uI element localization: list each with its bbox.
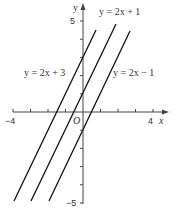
line-y-2x-minus-1 (49, 31, 130, 201)
y-axis-arrow-icon (81, 3, 86, 10)
y-max-label: 5 (70, 16, 75, 26)
label-y-2x-minus-1: y = 2x − 1 (113, 67, 154, 78)
y-min-label: −5 (66, 198, 76, 208)
label-y-2x-plus-3: y = 2x + 3 (24, 67, 65, 78)
x-max-label: 4 (148, 116, 153, 126)
x-axis-arrow-icon (162, 110, 169, 115)
y-axis-label: y (73, 2, 78, 13)
label-y-2x-plus-1: y = 2x + 1 (99, 6, 140, 17)
origin-label: O (73, 115, 80, 126)
line-y-2x-plus-3 (14, 30, 96, 201)
chart: −4 4 5 −5 y x O y = 2x + 1 y = 2x + 3 y … (0, 0, 174, 214)
x-axis-label: x (158, 115, 164, 126)
x-min-label: −4 (5, 116, 15, 126)
